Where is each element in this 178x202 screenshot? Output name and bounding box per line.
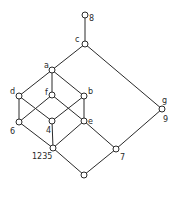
node-label-e: e: [88, 117, 93, 126]
node-top: [82, 12, 88, 18]
node-c: [82, 41, 88, 47]
node-f: [49, 92, 55, 98]
edge-f-6: [19, 95, 52, 122]
node-label-4: 4: [46, 126, 51, 135]
node-label-f: f: [45, 88, 48, 97]
edge-7-bottom: [84, 149, 116, 175]
node-label2-g9: 9: [163, 115, 168, 124]
node-1235: [50, 145, 56, 151]
node-4: [49, 118, 55, 124]
node-7: [113, 146, 119, 152]
node-bottom: [81, 172, 87, 178]
edge-4-1235: [52, 121, 53, 148]
node-label-c: c: [75, 35, 79, 44]
node-e: [81, 118, 87, 124]
edge-1235-bottom: [53, 148, 84, 175]
node-label-7: 7: [120, 153, 125, 162]
edge-c-g9: [85, 44, 162, 109]
node-d: [16, 93, 22, 99]
node-label-top: 8: [89, 14, 94, 23]
edge-a-b: [52, 70, 84, 96]
node-a: [49, 67, 55, 73]
node-label-a: a: [44, 61, 49, 70]
node-label-1235: 1235: [32, 152, 52, 161]
edge-g9-7: [116, 109, 162, 149]
node-g9: [159, 106, 165, 112]
edge-e-1235: [53, 121, 84, 148]
node-label-6: 6: [10, 127, 15, 136]
node-label-g9: g: [162, 96, 167, 105]
lattice-diagram: 8cadfb64e12357g9: [0, 0, 178, 202]
edge-c-a: [52, 44, 85, 70]
node-b: [81, 93, 87, 99]
node-6: [16, 119, 22, 125]
node-label-b: b: [88, 87, 93, 96]
node-label-d: d: [10, 87, 15, 96]
labels: 8cadfb64e12357g9: [10, 14, 168, 162]
